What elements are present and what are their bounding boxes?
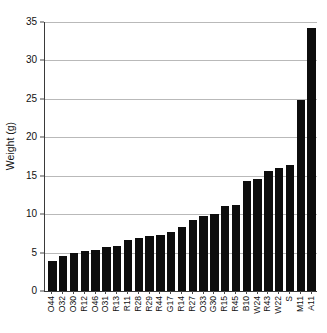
bar-slot (47, 22, 58, 291)
x-axis-tick-label: O44 (47, 296, 56, 312)
bar-slot (187, 22, 198, 291)
bar-slot (69, 22, 80, 291)
x-axis-tick-mark (159, 291, 160, 294)
bar (264, 171, 272, 291)
bar-slot (177, 22, 188, 291)
x-axis-tick-mark (267, 291, 268, 294)
x-axis-tick-mark (311, 291, 312, 294)
x-axis-tick: W24 (251, 291, 262, 333)
bar-slot (166, 22, 177, 291)
x-axis-tick-mark (300, 291, 301, 294)
x-axis-tick-label: R44 (155, 296, 164, 312)
x-axis-tick: M11 (294, 291, 305, 333)
x-axis-tick-label: R14 (177, 296, 186, 312)
x-axis-tick-mark (95, 291, 96, 294)
x-axis-tick-mark (84, 291, 85, 294)
bar (70, 253, 78, 291)
bar (48, 261, 56, 291)
bar-slot (112, 22, 123, 291)
x-axis-tick-label: R27 (187, 296, 196, 312)
x-axis-tick-label: O32 (58, 296, 67, 312)
x-axis-tick-label: G17 (166, 296, 175, 312)
x-axis-tick-label: O31 (101, 296, 110, 312)
x-axis-tick: O33 (197, 291, 208, 333)
bar-slot (263, 22, 274, 291)
bar-slot (133, 22, 144, 291)
x-axis-tick-label: A11 (306, 296, 315, 311)
x-axis-tick-label: R45 (231, 296, 240, 312)
bar-slot (123, 22, 134, 291)
y-axis-ticks: 05101520253035 (16, 0, 40, 333)
x-axis-tick-mark (246, 291, 247, 294)
x-axis-tick-label: W24 (252, 296, 261, 314)
bar-slot (306, 22, 317, 291)
bar-series (45, 22, 317, 291)
bar (189, 220, 197, 291)
x-axis-tick: G30 (208, 291, 219, 333)
bar (253, 179, 261, 291)
x-axis-tick: O32 (57, 291, 68, 333)
x-axis-tick-mark (149, 291, 150, 294)
bar (307, 28, 315, 291)
x-axis-tick-mark (138, 291, 139, 294)
x-axis-tick-label: R29 (144, 296, 153, 312)
x-axis-tick: R43 (262, 291, 273, 333)
x-axis-tick-label: R43 (263, 296, 272, 312)
x-axis-tick: A11 (305, 291, 316, 333)
x-axis-tick-mark (257, 291, 258, 294)
x-axis-tick-label: M11 (295, 296, 304, 312)
bar (167, 232, 175, 291)
x-axis-tick-label: S (285, 296, 294, 302)
x-axis-tick-mark (213, 291, 214, 294)
bar (156, 235, 164, 291)
x-axis-tick-label: R13 (112, 296, 121, 312)
bar-slot (155, 22, 166, 291)
x-axis-tick: S (284, 291, 295, 333)
x-axis-tick: O44 (46, 291, 57, 333)
x-axis-tick-mark (51, 291, 52, 294)
x-axis-tick-label: R28 (133, 296, 142, 312)
x-axis-tick-label: R11 (123, 296, 132, 311)
x-axis-tick-mark (105, 291, 106, 294)
bar (210, 214, 218, 291)
bar (243, 181, 251, 291)
x-axis-tick: W22 (273, 291, 284, 333)
bar-slot (231, 22, 242, 291)
x-axis-tick: R11 (122, 291, 133, 333)
x-axis-tick-mark (192, 291, 193, 294)
bar (221, 206, 229, 291)
bar (91, 250, 99, 292)
plot-area (44, 22, 317, 291)
x-axis-tick-label: G30 (209, 296, 218, 312)
x-axis-tick: O31 (100, 291, 111, 333)
bar-slot (285, 22, 296, 291)
bar-slot (101, 22, 112, 291)
bar (145, 236, 153, 291)
bar (102, 247, 110, 291)
bar-slot (220, 22, 231, 291)
x-axis-tick-mark (278, 291, 279, 294)
bar (199, 216, 207, 291)
bar-slot (198, 22, 209, 291)
bar (59, 256, 67, 291)
bar-slot (274, 22, 285, 291)
y-axis-tick-label: 5 (31, 248, 37, 258)
bar (286, 165, 294, 291)
x-axis-labels: O44O32O30R12O46O31R13R11R28R29R44G17R14R… (44, 291, 316, 333)
x-axis-tick: R27 (186, 291, 197, 333)
bar (124, 240, 132, 291)
bar (275, 168, 283, 291)
x-axis-tick: R44 (154, 291, 165, 333)
bar-slot (90, 22, 101, 291)
y-axis-tick-label: 35 (26, 17, 37, 27)
bar-slot (144, 22, 155, 291)
bar-slot (209, 22, 220, 291)
bar (81, 251, 89, 291)
y-axis-tick-label: 0 (31, 286, 37, 296)
bar (135, 238, 143, 291)
x-axis-tick: G17 (165, 291, 176, 333)
x-axis-tick: R15 (219, 291, 230, 333)
x-axis-tick-mark (62, 291, 63, 294)
x-axis-tick: O46 (89, 291, 100, 333)
bar-slot (58, 22, 69, 291)
